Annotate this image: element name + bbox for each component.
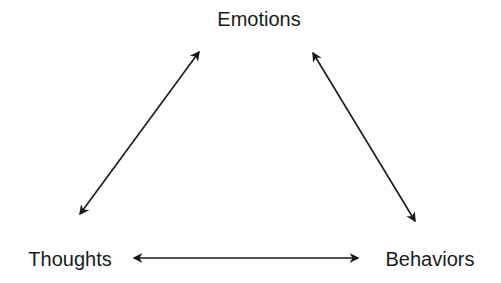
node-emotions: Emotions bbox=[217, 8, 300, 30]
node-behaviors: Behaviors bbox=[386, 248, 475, 270]
edge-thoughts-emotions-arrow bbox=[80, 52, 199, 214]
node-thoughts: Thoughts bbox=[28, 248, 111, 270]
edge-emotions-behaviors-arrow bbox=[313, 53, 415, 221]
cbt-triangle-diagram: Emotions Thoughts Behaviors bbox=[0, 0, 501, 283]
